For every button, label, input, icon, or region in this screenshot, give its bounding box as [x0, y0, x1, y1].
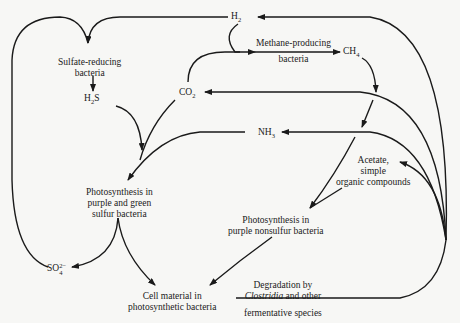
- methane-line1: Methane-producing: [256, 38, 331, 49]
- edge-ch4-down: [362, 58, 376, 92]
- edge-acetate-to-nonsulfur: [310, 188, 342, 208]
- h2-sub: 2: [238, 16, 241, 23]
- node-acetate: Acetate, simple organic compounds: [336, 155, 411, 188]
- node-sulfate-reducing-bacteria: Sulfate-reducing bacteria: [58, 57, 121, 79]
- photo-sulfur-line2: purple and green: [86, 198, 153, 209]
- edge-co2-to-methane: [188, 52, 240, 82]
- degradation-line2: Clostridia and other: [244, 291, 322, 302]
- edge-co2-to-photo: [140, 100, 175, 160]
- edge-h2-to-sulfate: [88, 17, 228, 43]
- photo-nonsulfur-line2: purple nonsulfur bacteria: [228, 226, 324, 237]
- degradation-line1: Degradation by: [244, 280, 322, 291]
- node-methane-producing-bacteria: Methane-producing bacteria: [256, 38, 331, 65]
- node-h2: H2: [231, 11, 241, 22]
- node-photosynthesis-sulfur: Photosynthesis in purple and green sulfu…: [86, 187, 153, 220]
- cell-line1: Cell material in: [128, 291, 216, 302]
- nh3-sub: 3: [272, 132, 275, 139]
- edge-photo-to-cell: [118, 218, 155, 285]
- acetate-line3: organic compounds: [336, 177, 411, 188]
- node-nh3: NH3: [258, 127, 275, 138]
- node-photosynthesis-nonsulfur: Photosynthesis in purple nonsulfur bacte…: [228, 215, 324, 237]
- photo-sulfur-line1: Photosynthesis in: [86, 187, 153, 198]
- nh3-label: NH: [258, 127, 272, 137]
- acetate-line1: Acetate,: [336, 155, 411, 166]
- acetate-line2: simple: [336, 166, 411, 177]
- photo-nonsulfur-line1: Photosynthesis in: [228, 215, 324, 226]
- methane-line2: bacteria: [256, 54, 331, 65]
- edge-photo-to-so4: [72, 218, 118, 267]
- so4-label: SO: [47, 263, 59, 273]
- node-co2: CO2: [179, 87, 195, 98]
- edge-nonsulfur-to-cell: [210, 237, 272, 285]
- edge-ch4-down-2: [362, 100, 373, 127]
- degradation-line3: fermentative species: [244, 308, 322, 319]
- node-ch4: CH4: [343, 46, 359, 57]
- ch4-sub: 4: [356, 51, 359, 58]
- degradation-line2-rest: and other: [283, 291, 321, 301]
- h2-label: H: [231, 11, 238, 21]
- h2s-label-a: H: [84, 93, 91, 103]
- node-so4: SO2−4: [47, 262, 66, 276]
- h2s-label-b: S: [94, 93, 99, 103]
- so4-sub: 4: [59, 269, 66, 276]
- sulfate-line2: bacteria: [58, 68, 121, 79]
- sulfate-line1: Sulfate-reducing: [58, 57, 121, 68]
- photo-sulfur-line3: sulfur bacteria: [86, 209, 153, 220]
- edge-h2s-to-photo: [116, 106, 142, 150]
- edge-h2-to-methane: [229, 24, 255, 52]
- cell-line2: photosynthetic bacteria: [128, 302, 216, 313]
- co2-sub: 2: [192, 92, 195, 99]
- node-cell-material: Cell material in photosynthetic bacteria: [128, 291, 216, 313]
- diagram-canvas: H2 Sulfate-reducing bacteria H2S CO2 Met…: [0, 0, 460, 323]
- ch4-label: CH: [343, 46, 356, 56]
- co2-label: CO: [179, 87, 192, 97]
- node-degradation: Degradation by Clostridia and other ferm…: [244, 280, 322, 319]
- node-h2s: H2S: [84, 93, 99, 104]
- edge-nh3-to-photo: [128, 132, 245, 180]
- so4-sup: 2−: [59, 262, 66, 269]
- edge-so4-to-sulfate: [12, 17, 88, 267]
- clostridia-text: Clostridia: [245, 291, 284, 301]
